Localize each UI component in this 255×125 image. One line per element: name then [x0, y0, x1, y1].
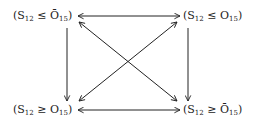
arrows-layer [0, 0, 255, 125]
commutative-diagram: (S12 ≤ Ō15) (S12 ≤ O15) (S12 ≥ O15) (S12… [0, 0, 255, 125]
